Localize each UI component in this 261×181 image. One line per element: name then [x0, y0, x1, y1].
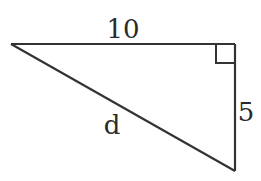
right-angle-marker [216, 44, 235, 63]
triangle-diagram: 10 5 d [0, 0, 261, 181]
triangle [11, 44, 235, 171]
hypotenuse [11, 44, 235, 171]
label-right-side: 5 [238, 97, 255, 127]
label-top-side: 10 [106, 14, 139, 44]
label-hypotenuse: d [104, 110, 121, 140]
